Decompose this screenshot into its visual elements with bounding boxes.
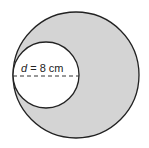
- small-circle: [13, 42, 79, 108]
- circles-diagram: d = 8 cm: [0, 0, 149, 148]
- diameter-label: d = 8 cm: [21, 62, 64, 74]
- diameter-value: = 8 cm: [27, 62, 63, 74]
